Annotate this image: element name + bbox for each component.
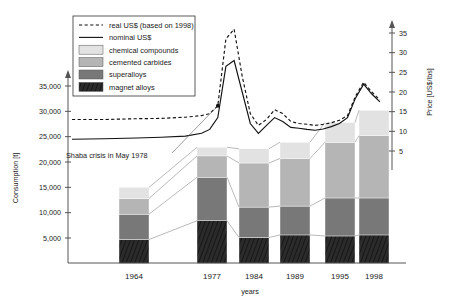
bar-segment bbox=[119, 214, 149, 239]
x-category-label: 1995 bbox=[331, 272, 349, 281]
bar-segment bbox=[325, 122, 355, 142]
bar-segment bbox=[325, 236, 355, 263]
y2-tick-label: 5 bbox=[399, 147, 403, 156]
bar-segment bbox=[325, 198, 355, 236]
bar-segment bbox=[239, 237, 269, 263]
bar-segment bbox=[359, 110, 389, 135]
bar-segment bbox=[359, 136, 389, 198]
y-tick-label: 30,000 bbox=[39, 107, 61, 116]
x-category-label: 1989 bbox=[286, 272, 304, 281]
x-category-label: 1964 bbox=[125, 272, 143, 281]
x-category-label: 1977 bbox=[203, 272, 221, 281]
bar-segment bbox=[239, 149, 269, 163]
x-category-label: 1984 bbox=[245, 272, 263, 281]
x-category-label: 1998 bbox=[365, 272, 383, 281]
legend-swatch bbox=[79, 70, 103, 79]
bar-segment bbox=[197, 221, 227, 264]
shaba-crisis-annotation: Shaba crisis in May 1978 bbox=[66, 151, 148, 160]
bar-segment bbox=[325, 142, 355, 198]
bar-segment bbox=[119, 198, 149, 214]
legend-swatch bbox=[79, 45, 103, 54]
y-tick-label: 35,000 bbox=[39, 82, 61, 91]
annotation-point-marker bbox=[216, 104, 220, 108]
legend-swatch bbox=[79, 82, 103, 91]
y-tick-label: 25,000 bbox=[39, 132, 61, 141]
legend-item-label: magnet alloys bbox=[109, 83, 155, 92]
y2-tick-label: 15 bbox=[399, 107, 407, 116]
bar-segment bbox=[280, 158, 310, 206]
chart-legend: real US$ (based on 1998)nominal US$chemi… bbox=[73, 16, 195, 96]
y-tick-label: 20,000 bbox=[39, 158, 61, 167]
legend-item-label: cemented carbides bbox=[109, 58, 172, 67]
consumption-price-chart: 5,00010,00015,00020,00025,00030,00035,00… bbox=[0, 0, 454, 302]
y-tick-label: 5,000 bbox=[43, 234, 61, 243]
y-tick-label: 15,000 bbox=[39, 183, 61, 192]
bar-segment bbox=[197, 177, 227, 221]
bar-segment bbox=[239, 207, 269, 237]
y2-tick-label: 20 bbox=[399, 88, 407, 97]
bar-segment bbox=[197, 147, 227, 156]
bar-segment bbox=[119, 240, 149, 264]
legend-item-label: nominal US$ bbox=[109, 33, 151, 42]
chart-figure: 5,00010,00015,00020,00025,00030,00035,00… bbox=[0, 0, 454, 302]
bar-segment bbox=[280, 235, 310, 263]
legend-item-label: real US$ (based on 1998) bbox=[109, 21, 194, 30]
y-axis-title: Consumption [t] bbox=[11, 153, 20, 203]
bar-segment bbox=[119, 187, 149, 198]
y2-tick-label: 35 bbox=[399, 29, 407, 38]
y2-tick-label: 30 bbox=[399, 48, 407, 57]
y2-axis-title: Price [US$/lbs] bbox=[425, 68, 434, 116]
bar-segment bbox=[280, 206, 310, 235]
legend-swatch bbox=[79, 58, 103, 67]
bar-segment bbox=[280, 142, 310, 158]
bar-segment bbox=[359, 198, 389, 235]
bar-segment bbox=[359, 235, 389, 263]
legend-item-label: superalloys bbox=[109, 70, 147, 79]
bar-segment bbox=[197, 156, 227, 177]
y2-tick-label: 10 bbox=[399, 127, 407, 136]
bar-segment bbox=[239, 163, 269, 207]
y-tick-label: 10,000 bbox=[39, 208, 61, 217]
x-axis-title: years bbox=[241, 287, 259, 296]
y2-tick-label: 25 bbox=[399, 68, 407, 77]
legend-item-label: chemical compounds bbox=[109, 46, 179, 55]
